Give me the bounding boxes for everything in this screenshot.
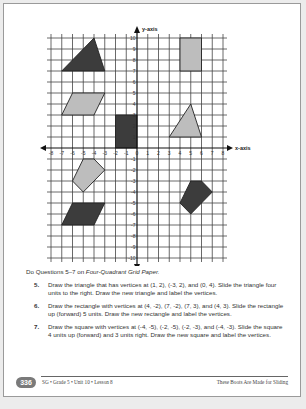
x-tick-label: -3 (103, 150, 108, 156)
y-tick-label: 7 (133, 68, 136, 74)
x-tick-label: 4 (179, 150, 182, 156)
y-tick-label: -3 (131, 178, 136, 184)
y-tick-label: 5 (133, 90, 136, 96)
dark-parallelogram (62, 203, 105, 225)
y-tick-label: -1 (131, 156, 136, 162)
page-footer: 336 SG • Grade 5 • Unit 10 • Lesson 8 Th… (16, 376, 288, 390)
y-tick-label: -8 (131, 233, 136, 239)
y-tick-label: 8 (133, 57, 136, 63)
question-7: 7. Draw the square with vertices at (-4,… (34, 323, 286, 339)
y-tick-label: 1 (133, 134, 136, 140)
y-tick-label: 9 (133, 46, 136, 52)
x-tick-label: -1 (124, 150, 129, 156)
x-axis-label: x-axis (235, 145, 251, 151)
y-tick-label: -7 (131, 222, 136, 228)
x-tick-label: 5 (189, 150, 192, 156)
x-tick-label: 7 (211, 150, 214, 156)
y-tick-label: -9 (131, 244, 136, 250)
x-tick-label: -8 (49, 150, 54, 156)
x-tick-label: 6 (200, 150, 203, 156)
instructions-lead: Do Questions 5–7 on Four-Quadrant Grid P… (26, 268, 286, 275)
y-tick-label: 6 (133, 79, 136, 85)
x-axis-arrow-left-icon (40, 145, 46, 151)
y-tick-label: -2 (131, 167, 136, 173)
dark-pentagon (180, 181, 212, 214)
worksheet-page: x-axisy-axis-8-7-6-5-4-3-2-1012345678109… (3, 3, 301, 397)
question-5: 5. Draw the triangle that has vertices a… (34, 281, 286, 297)
y-tick-label: -4 (131, 189, 136, 195)
footer-lesson-title: These Boots Are Made for Sliding (217, 379, 288, 385)
y-tick-label: 4 (133, 101, 136, 107)
x-tick-label: -2 (113, 150, 118, 156)
x-axis-arrow-right-icon (227, 145, 233, 151)
instructions: Do Questions 5–7 on Four-Quadrant Grid P… (26, 268, 286, 344)
y-axis-arrow-up-icon (134, 26, 140, 33)
y-tick-label: -6 (131, 211, 136, 217)
y-tick-label: -5 (131, 200, 136, 206)
y-axis-label: y-axis (142, 26, 158, 32)
y-axis-arrow-down-icon (134, 264, 140, 266)
page-number-badge: 336 (16, 377, 36, 388)
x-tick-label: 8 (222, 150, 225, 156)
light-pentagon (73, 159, 105, 192)
y-tick-label: -10 (128, 255, 135, 261)
light-triangle (169, 104, 201, 137)
y-tick-label: 10 (130, 35, 136, 41)
x-tick-label: 2 (157, 150, 160, 156)
dark-rectangle (116, 115, 138, 148)
x-tick-label: 3 (168, 150, 171, 156)
x-tick-label: -5 (81, 150, 86, 156)
x-tick-label: 0 (136, 150, 139, 156)
x-tick-label: 1 (146, 150, 149, 156)
four-quadrant-grid: x-axisy-axis-8-7-6-5-4-3-2-1012345678109… (4, 4, 302, 266)
gray-rectangle (180, 38, 202, 71)
light-parallelogram (62, 93, 105, 115)
y-tick-label: 2 (133, 123, 136, 129)
y-tick-label: 3 (133, 112, 136, 118)
footer-course-info: SG • Grade 5 • Unit 10 • Lesson 8 (42, 379, 113, 385)
x-tick-label: -4 (92, 150, 97, 156)
footer-rule (41, 376, 288, 377)
x-tick-label: -6 (70, 150, 75, 156)
x-tick-label: -7 (60, 150, 65, 156)
question-6: 6. Draw the rectangle with vertices at (… (34, 302, 286, 318)
